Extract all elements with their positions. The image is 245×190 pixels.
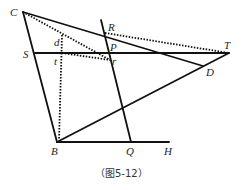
label-H: H (163, 145, 173, 157)
label-t: t (54, 55, 58, 67)
label-S: S (23, 48, 29, 60)
label-B: B (51, 145, 58, 157)
label-d: d (54, 36, 60, 48)
line-RPQ (101, 20, 131, 142)
label-r: r (112, 55, 117, 67)
segment-dB (59, 35, 62, 140)
point-labels: C R P T S d t r D B Q H (10, 6, 231, 157)
segment-CB (23, 12, 57, 142)
label-P: P (109, 41, 117, 53)
label-R: R (107, 21, 115, 33)
label-T: T (224, 39, 231, 51)
label-D: D (205, 66, 214, 78)
figure-caption: （图5-12） (95, 168, 148, 179)
geometry-figure: C R P T S d t r D B Q H （图5-12） (0, 0, 245, 190)
label-C: C (10, 6, 18, 18)
segment-BT (57, 53, 229, 142)
label-Q: Q (126, 145, 134, 157)
solid-lines (23, 12, 229, 142)
